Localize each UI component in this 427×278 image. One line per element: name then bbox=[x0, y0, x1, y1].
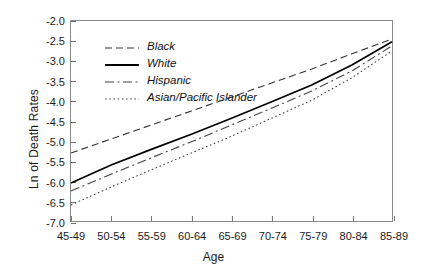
x-axis-tick-label: 65-69 bbox=[218, 221, 246, 242]
x-axis-label: Age bbox=[0, 250, 427, 264]
y-axis-tick-label: -6.5 bbox=[46, 197, 71, 209]
y-axis-tick-label: -3.0 bbox=[46, 55, 71, 67]
legend-item: Asian/Pacific Islander bbox=[105, 88, 257, 105]
y-axis-label: Ln of Death Rates bbox=[27, 59, 41, 219]
x-tick-mark bbox=[393, 216, 394, 221]
x-axis-tick-label: 80-84 bbox=[340, 221, 368, 242]
x-axis-tick-label: 50-54 bbox=[97, 221, 125, 242]
y-axis-tick-label: -5.0 bbox=[46, 136, 71, 148]
legend-item: White bbox=[105, 54, 257, 71]
legend-item: Hispanic bbox=[105, 71, 257, 88]
legend-label: Asian/Pacific Islander bbox=[147, 91, 257, 103]
y-axis-tick-label: -4.0 bbox=[46, 96, 71, 108]
y-axis-tick-label: -5.5 bbox=[46, 156, 71, 168]
legend-line-sample bbox=[105, 74, 139, 86]
x-axis-tick-label: 70-74 bbox=[259, 221, 287, 242]
legend-line-sample bbox=[105, 57, 139, 69]
x-axis-tick-label: 85-89 bbox=[380, 221, 408, 242]
legend-line-sample bbox=[105, 40, 139, 52]
y-axis-tick-label: -4.5 bbox=[46, 116, 71, 128]
legend-item: Black bbox=[105, 37, 257, 54]
x-axis-tick-label: 60-64 bbox=[178, 221, 206, 242]
plot-area: -2.0-2.5-3.0-3.5-4.0-4.5-5.0-5.5-6.0-6.5… bbox=[70, 20, 393, 222]
y-axis-tick-label: -3.5 bbox=[46, 76, 71, 88]
legend-label: White bbox=[147, 57, 176, 69]
x-axis-tick-label: 45-49 bbox=[57, 221, 85, 242]
legend-label: Black bbox=[147, 40, 175, 52]
y-axis-tick-label: -2.5 bbox=[46, 35, 71, 47]
x-axis-tick-label: 75-79 bbox=[299, 221, 327, 242]
x-axis-tick-label: 55-59 bbox=[138, 221, 166, 242]
chart-container: Ln of Death Rates -2.0-2.5-3.0-3.5-4.0-4… bbox=[0, 0, 427, 278]
y-axis-tick-label: -2.0 bbox=[46, 15, 71, 27]
chart-legend: BlackWhiteHispanicAsian/Pacific Islander bbox=[105, 37, 257, 105]
y-axis-tick-label: -6.0 bbox=[46, 177, 71, 189]
legend-line-sample bbox=[105, 91, 139, 103]
legend-label: Hispanic bbox=[147, 74, 191, 86]
